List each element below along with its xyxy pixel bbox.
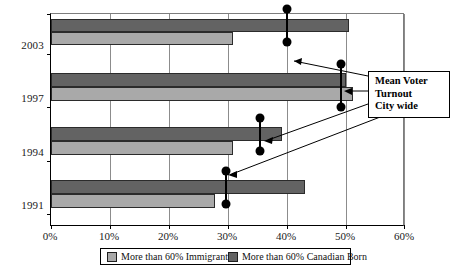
y-axis-label-2003: 2003 xyxy=(0,39,44,51)
x-axis-label-40: 40% xyxy=(266,230,306,242)
x-tick-50 xyxy=(346,225,347,229)
x-axis-label-50: 50% xyxy=(325,230,365,242)
mean-marker-dot-1994-bottom xyxy=(256,147,265,156)
callout-line-2: Turnout xyxy=(375,88,444,101)
bar-1994-canadian-born xyxy=(51,127,282,141)
y-axis-label-1994: 1994 xyxy=(0,146,44,158)
legend-swatch-canadian-born-icon xyxy=(228,252,238,262)
mean-marker-dot-2003-bottom xyxy=(283,38,292,47)
x-axis-label-60: 60% xyxy=(384,230,424,242)
callout-line-3: City wide xyxy=(375,100,444,113)
mean-marker-dot-2003-top xyxy=(283,5,292,14)
x-tick-0 xyxy=(51,225,52,229)
chart-legend: More than 60% Immigrant More than 60% Ca… xyxy=(100,248,351,265)
x-axis-label-30: 30% xyxy=(207,230,247,242)
bar-2003-immigrant xyxy=(51,32,233,45)
bar-1991-canadian-born xyxy=(51,180,305,194)
bar-1994-immigrant xyxy=(51,141,233,155)
y-axis-label-1997: 1997 xyxy=(0,92,44,104)
gridline-50 xyxy=(346,14,347,225)
gridline-60 xyxy=(404,14,405,225)
legend-item-immigrant: More than 60% Immigrant xyxy=(107,251,228,262)
legend-swatch-immigrant-icon xyxy=(107,252,117,262)
x-tick-30 xyxy=(228,225,229,229)
x-tick-40 xyxy=(287,225,288,229)
legend-label-canadian-born: More than 60% Canadian Born xyxy=(242,251,367,262)
x-axis-label-0: 0% xyxy=(30,230,70,242)
mean-marker-dot-1991-top xyxy=(222,167,231,176)
x-tick-10 xyxy=(110,225,111,229)
callout-line-1: Mean Voter xyxy=(375,75,444,88)
x-tick-20 xyxy=(169,225,170,229)
mean-marker-dot-1997-top xyxy=(337,60,346,69)
mean-marker-dot-1991-bottom xyxy=(222,200,231,209)
x-axis-label-20: 20% xyxy=(148,230,188,242)
x-tick-60 xyxy=(404,225,405,229)
legend-item-canadian-born: More than 60% Canadian Born xyxy=(228,251,367,262)
mean-voter-turnout-callout: Mean Voter Turnout City wide xyxy=(368,71,450,118)
y-tick-4 xyxy=(47,214,51,215)
mean-marker-dot-1994-top xyxy=(256,114,265,123)
y-tick-2 xyxy=(47,107,51,108)
x-axis-label-10: 10% xyxy=(89,230,129,242)
mean-marker-dot-1997-bottom xyxy=(337,103,346,112)
y-axis-label-1991: 1991 xyxy=(0,199,44,211)
legend-label-immigrant: More than 60% Immigrant xyxy=(121,251,228,262)
y-tick-1 xyxy=(47,54,51,55)
bar-chart: 2003 1997 1994 1991 0% 10% 20% 30% 40% 5… xyxy=(0,0,453,274)
bar-1991-immigrant xyxy=(51,194,215,208)
bar-2003-canadian-born xyxy=(51,19,349,32)
plot-area xyxy=(50,13,404,226)
bar-1997-canadian-born xyxy=(51,73,346,87)
bar-1997-immigrant xyxy=(51,87,353,101)
mean-marker-stem-1997 xyxy=(340,64,342,107)
y-tick-0 xyxy=(47,14,51,15)
y-tick-3 xyxy=(47,161,51,162)
